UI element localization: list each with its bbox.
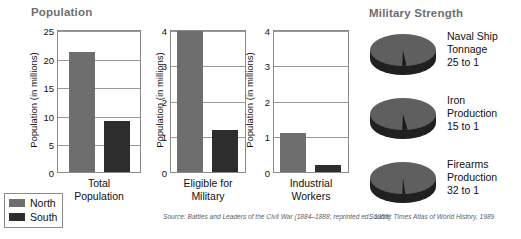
bar-north-industrial-workers[interactable]	[280, 133, 306, 172]
chart3-category-line2: Workers	[273, 190, 349, 203]
legend-swatch-north-icon	[9, 199, 25, 207]
chart1-tick-0: 0	[49, 167, 54, 178]
chart3-tick-2: 2	[265, 96, 270, 107]
gridline: 3	[274, 66, 348, 67]
chart2-tick-3: 3	[162, 61, 167, 72]
chart1-tick-10: 10	[43, 111, 54, 122]
chart1-tick-15: 15	[43, 83, 54, 94]
chart2-tick-1: 1	[162, 132, 167, 143]
chart2-tick-4: 4	[162, 26, 167, 37]
bar-north-total-population[interactable]	[69, 52, 95, 172]
legend-label-south: South	[30, 211, 57, 223]
chart3-category-label: Industrial Workers	[273, 177, 349, 202]
population-legend: North South	[4, 193, 63, 228]
chart2-category-label: Eligible for Military	[170, 177, 246, 202]
chart2-tick-0: 0	[162, 167, 167, 178]
chart3-y-axis-label: Population (in millions)	[244, 27, 256, 173]
gridline: 2	[274, 102, 348, 103]
infographic-root: Population Population (in millions) 25 2…	[0, 0, 521, 239]
military-label-line2: Production	[447, 171, 497, 184]
bar-south-total-population[interactable]	[104, 121, 130, 173]
chart3-category-line1: Industrial	[273, 177, 349, 190]
population-source-citation: Source: Battles and Leaders of the Civil…	[163, 213, 391, 220]
population-section-title: Population	[31, 6, 92, 18]
military-section-title: Military Strength	[369, 7, 463, 19]
chart3-frame: 4 3 2 1 0	[273, 30, 349, 173]
bar-south-eligible-for-military[interactable]	[212, 130, 238, 173]
military-label-iron-production: Iron Production 15 to 1	[447, 94, 497, 133]
legend-swatch-south-icon	[9, 213, 25, 221]
military-label-firearms-production: Firearms Production 32 to 1	[447, 158, 497, 197]
pie-chart-naval-ship-tonnage-icon[interactable]	[369, 28, 437, 78]
chart1-frame: 25 20 15 10 5 0	[57, 30, 141, 173]
chart3-tick-4: 4	[265, 26, 270, 37]
pie-chart-iron-production-icon[interactable]	[369, 92, 437, 142]
chart2-tick-2: 2	[162, 96, 167, 107]
chart1-category-label: Total Population	[57, 177, 141, 202]
chart2-category-line2: Military	[170, 190, 246, 203]
military-label-naval-ship-tonnage: Naval Ship Tonnage 25 to 1	[447, 30, 498, 69]
chart1-category-line1: Total	[57, 177, 141, 190]
gridline: 4	[274, 31, 348, 32]
chart2-frame: 4 3 2 1 0	[170, 30, 246, 173]
gridline-baseline: 0	[58, 173, 140, 174]
legend-label-north: North	[30, 197, 56, 209]
legend-item-south[interactable]: South	[9, 210, 57, 224]
military-label-line2: Production	[447, 107, 497, 120]
military-label-line1: Firearms	[447, 158, 497, 171]
chart3-plot-area: 4 3 2 1 0	[273, 30, 349, 173]
gridline: 25	[58, 31, 140, 32]
bar-north-eligible-for-military[interactable]	[177, 31, 203, 173]
chart1-y-axis-label: Population (in millions)	[28, 27, 40, 173]
military-source-citation: Source: Times Atlas of World History, 19…	[369, 213, 494, 220]
chart1-plot-area: 25 20 15 10 5 0	[57, 30, 141, 173]
gridline-baseline: 0	[171, 173, 245, 174]
legend-item-north[interactable]: North	[9, 196, 57, 210]
military-ratio: 32 to 1	[447, 184, 497, 197]
military-ratio: 25 to 1	[447, 56, 498, 69]
chart3-tick-0: 0	[265, 167, 270, 178]
chart1-tick-5: 5	[49, 140, 54, 151]
chart1-tick-25: 25	[43, 26, 54, 37]
military-label-line1: Iron	[447, 94, 497, 107]
chart3-tick-3: 3	[265, 61, 270, 72]
military-label-line1: Naval Ship	[447, 30, 498, 43]
chart2-category-line1: Eligible for	[170, 177, 246, 190]
military-label-line2: Tonnage	[447, 43, 498, 56]
chart3-tick-1: 1	[265, 132, 270, 143]
chart1-category-line2: Population	[57, 190, 141, 203]
pie-chart-firearms-production-icon[interactable]	[369, 156, 437, 206]
chart2-plot-area: 4 3 2 1 0	[170, 30, 246, 173]
bar-south-industrial-workers[interactable]	[315, 165, 341, 172]
chart1-tick-20: 20	[43, 54, 54, 65]
gridline-baseline: 0	[274, 173, 348, 174]
military-ratio: 15 to 1	[447, 120, 497, 133]
